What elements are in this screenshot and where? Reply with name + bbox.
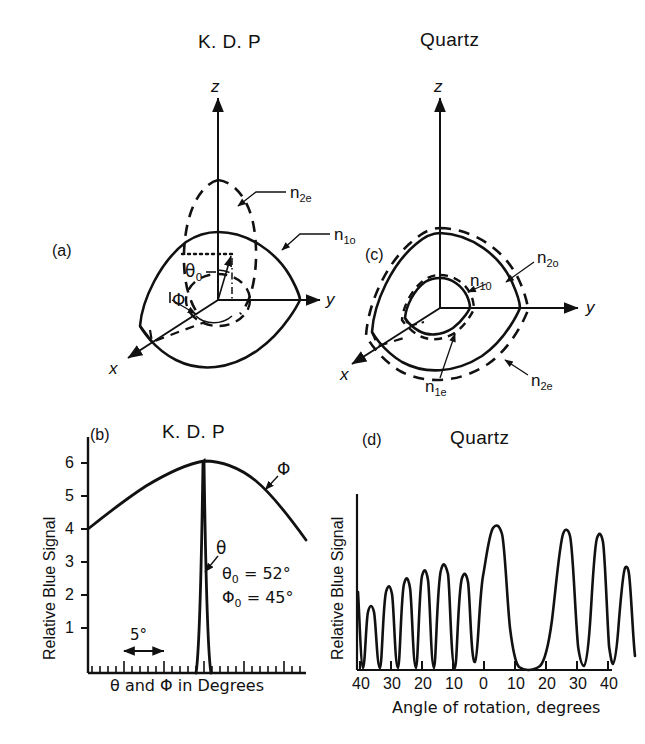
chart-b-theta0-sub: 0 (232, 573, 239, 586)
chart-b-title: K. D. P (162, 422, 225, 441)
panel-a-surface-n2e (218, 180, 256, 314)
chart-d-xtick-plus30: 30 (569, 676, 587, 692)
chart-b-annotation-phi0: Φ0 = 45° (222, 590, 294, 606)
panel-a-n2e-sub: 2e (299, 192, 311, 204)
panel-a-surface-n2e-left (184, 180, 218, 316)
panel-a-theta-arc (218, 270, 230, 273)
chart-b-tag: (b) (90, 427, 110, 443)
chart-b-series-phi-label: Φ (277, 461, 290, 478)
panel-a-n2e-label: n2e (290, 184, 312, 201)
chart-b-y-axis-label: Relative Blue Signal (42, 517, 58, 660)
panel-c-surface-n2o (372, 233, 520, 370)
chart-b-ytick-3: 3 (65, 554, 74, 570)
chart-b-ytick-6: 6 (65, 455, 74, 471)
panel-a-direction-ray (218, 256, 231, 300)
panel-a-leader-n1o (282, 234, 330, 250)
panel-c-axis-x-label: x (340, 366, 349, 383)
panel-c-n2o-sub: 2o (546, 257, 558, 269)
panel-a-theta-zero-label: θ0 (185, 263, 202, 280)
chart-b-ytick-1: 1 (65, 620, 74, 636)
chart-b-phi0-base: Φ (222, 588, 235, 607)
chart-d-y-axis-label: Relative Blue Signal (330, 517, 346, 660)
panel-c-n1e-label: n1e (425, 378, 447, 395)
panel-a-axis-z-label: z (211, 78, 220, 95)
figure-root: K. D. P (a) z y x n2e n1o θ0 Φ Quartz (c… (0, 0, 645, 744)
chart-b-scale-bar-label: 5° (130, 628, 147, 643)
chart-b-theta0-value: = 52° (244, 564, 291, 583)
panel-a-theta-sub: 0 (195, 271, 202, 284)
panel-a-title: K. D. P (198, 32, 261, 51)
panel-c-n10-label: n10 (470, 272, 492, 289)
chart-b-ytick-5: 5 (65, 488, 74, 504)
chart-d-curve-signal (358, 526, 635, 670)
chart-d-xtick-minus20: 20 (414, 676, 432, 692)
panel-c-tag: (c) (365, 247, 384, 263)
chart-d-xtick-plus20: 20 (538, 676, 556, 692)
panel-c-surface-n10 (405, 278, 470, 334)
chart-d-xtick-minus30: 30 (383, 676, 401, 692)
panel-c-n2e-label: n2e (531, 372, 553, 389)
panel-c-artwork (352, 98, 578, 380)
panel-c-n10-sub: 10 (479, 280, 491, 292)
panel-c-leader-n1e (440, 334, 455, 378)
chart-d-tag: (d) (362, 432, 382, 448)
chart-b-ytick-4: 4 (65, 521, 74, 537)
chart-d-x-axis-label: Angle of rotation, degrees (392, 700, 600, 716)
panel-c-axis-z-label: z (434, 78, 443, 95)
panel-a-axis-y-label: y (326, 291, 335, 308)
chart-d-xtick-plus40: 40 (600, 676, 618, 692)
chart-b-theta0-base: θ (222, 564, 232, 583)
panel-c-n1e-sub: 1e (434, 386, 446, 398)
panel-a-phi-label: Φ (172, 292, 185, 309)
panel-a-n1o-sub: 1o (343, 234, 355, 246)
chart-d-title: Quartz (450, 428, 509, 447)
chart-d-xtick-minus10: 10 (445, 676, 463, 692)
chart-d-xtick-zero: 0 (479, 676, 488, 692)
panel-c-leader-n2e (505, 360, 528, 375)
chart-b-ytick-2: 2 (65, 587, 74, 603)
panel-b-artwork (81, 437, 306, 673)
panel-a-axis-x-label: x (109, 360, 118, 377)
chart-d-xtick-plus10: 10 (507, 676, 525, 692)
panel-a-artwork (128, 98, 330, 367)
panel-c-n2e-sub: 2e (540, 380, 552, 392)
panel-c-axis-x (352, 308, 440, 364)
panel-c-n2o-label: n2o (537, 249, 559, 266)
panel-a-theta-base: θ (185, 261, 195, 281)
panel-c-title: Quartz (420, 30, 479, 49)
panel-a-tag: (a) (52, 243, 72, 259)
panel-c-axis-y-label: y (586, 299, 595, 316)
panel-a-phi-base: Φ (172, 290, 185, 310)
chart-b-phi0-sub: 0 (235, 597, 242, 610)
panel-d-artwork (357, 494, 635, 670)
panel-a-n1o-label: n1o (334, 226, 356, 243)
chart-b-annotation-theta0: θ0 = 52° (222, 566, 291, 582)
chart-b-series-theta-label: θ (216, 540, 226, 557)
chart-b-x-axis-label: θ and Φ in Degrees (110, 678, 264, 694)
chart-b-curve-phi (88, 461, 306, 540)
chart-b-phi0-value: = 45° (247, 588, 294, 607)
chart-d-xtick-minus40: 40 (352, 676, 370, 692)
panel-a-phi-arc (196, 316, 232, 323)
